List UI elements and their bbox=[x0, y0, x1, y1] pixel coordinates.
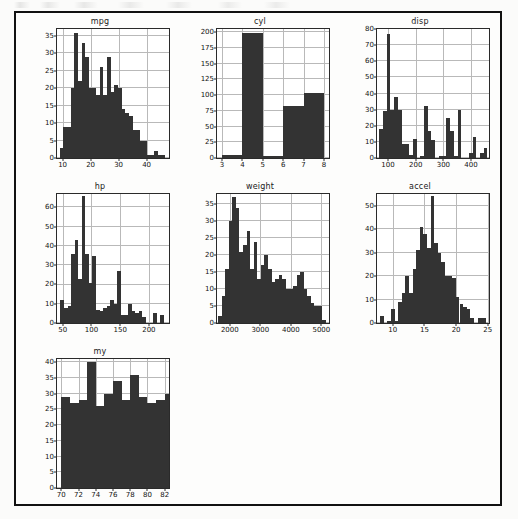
plot-area-accel: 0102030405010152025 bbox=[376, 193, 490, 324]
y-axis-tick-label: 20 bbox=[205, 252, 214, 259]
y-axis-tick-mark bbox=[214, 255, 217, 256]
subplot-my: my 051015202530354070727476788082 bbox=[20, 346, 180, 509]
chart-title-my: my bbox=[20, 347, 180, 357]
y-axis-tick-label: 15 bbox=[205, 269, 214, 276]
x-axis-tick-label: 5 bbox=[261, 162, 265, 169]
y-axis-tick-mark bbox=[54, 456, 57, 457]
chart-title-accel: accel bbox=[340, 182, 500, 192]
x-axis-tick-mark bbox=[120, 323, 121, 326]
x-axis-tick-label: 150 bbox=[113, 327, 126, 334]
y-axis-tick-label: 30 bbox=[205, 218, 214, 225]
x-axis-tick-mark bbox=[388, 158, 389, 161]
x-axis-tick-mark bbox=[229, 323, 230, 326]
y-axis-tick-label: 10 bbox=[365, 138, 374, 145]
x-axis-tick-label: 2000 bbox=[221, 327, 239, 334]
chart-title-weight: weight bbox=[180, 182, 340, 192]
y-axis-tick-mark bbox=[214, 110, 217, 111]
y-axis-tick-mark bbox=[374, 93, 377, 94]
x-axis-tick-mark bbox=[290, 323, 291, 326]
plot-area-cyl: 0255075100125150175200345678 bbox=[216, 28, 330, 159]
y-axis-tick-label: 30 bbox=[365, 106, 374, 113]
y-axis-tick-label: 35 bbox=[45, 374, 54, 381]
x-axis-tick-label: 25 bbox=[483, 327, 492, 334]
histogram-bar bbox=[122, 400, 131, 488]
histogram-bar bbox=[87, 362, 96, 488]
y-axis-tick-label: 200 bbox=[201, 29, 214, 36]
y-axis-tick-mark bbox=[54, 488, 57, 489]
subplot-weight: weight 051015202530352000300040005000 bbox=[180, 181, 340, 344]
y-axis-tick-mark bbox=[54, 362, 57, 363]
chart-title-mpg: mpg bbox=[20, 17, 180, 27]
histogram-bar bbox=[322, 320, 326, 323]
histogram-bar bbox=[79, 400, 88, 488]
y-axis-tick-mark bbox=[374, 29, 377, 30]
histogram-bar bbox=[160, 315, 164, 323]
histogram-bar bbox=[153, 313, 157, 323]
y-axis-tick-mark bbox=[214, 221, 217, 222]
y-axis-tick-mark bbox=[214, 306, 217, 307]
x-axis-tick-label: 74 bbox=[91, 492, 100, 499]
plot-canvas-weight bbox=[217, 194, 329, 323]
histogram-bar bbox=[380, 316, 384, 323]
gridline-horizontal bbox=[57, 226, 169, 227]
histogram-bar bbox=[304, 93, 324, 158]
histogram-bar bbox=[70, 403, 79, 488]
y-axis-tick-label: 20 bbox=[365, 122, 374, 129]
x-axis-tick-label: 72 bbox=[74, 492, 83, 499]
y-axis-tick-mark bbox=[214, 79, 217, 80]
histogram-bar bbox=[413, 139, 417, 158]
histogram-bar bbox=[130, 375, 139, 488]
y-axis-tick-mark bbox=[54, 284, 57, 285]
y-axis-tick-label: 40 bbox=[45, 242, 54, 249]
y-axis-tick-label: 175 bbox=[201, 44, 214, 51]
y-axis-tick-mark bbox=[214, 126, 217, 127]
y-axis-tick-mark bbox=[374, 229, 377, 230]
x-axis-tick-label: 5000 bbox=[312, 327, 330, 334]
x-axis-tick-mark bbox=[147, 488, 148, 491]
y-axis-tick-label: 125 bbox=[201, 76, 214, 83]
subplot-mpg: mpg 0510152025303510203040 bbox=[20, 16, 180, 179]
y-axis-tick-mark bbox=[54, 35, 57, 36]
y-axis-tick-mark bbox=[54, 226, 57, 227]
y-axis-tick-label: 50 bbox=[45, 223, 54, 230]
histogram-bar bbox=[113, 381, 122, 488]
y-axis-tick-mark bbox=[374, 299, 377, 300]
y-axis-tick-label: 10 bbox=[205, 286, 214, 293]
y-axis-tick-mark bbox=[54, 53, 57, 54]
y-axis-tick-label: 30 bbox=[45, 262, 54, 269]
y-axis-tick-label: 15 bbox=[45, 437, 54, 444]
y-axis-tick-mark bbox=[374, 141, 377, 142]
histogram-bar bbox=[142, 317, 146, 323]
y-axis-tick-label: 40 bbox=[365, 226, 374, 233]
x-axis-tick-mark bbox=[415, 158, 416, 161]
y-axis-tick-label: 25 bbox=[205, 139, 214, 146]
chart-title-disp: disp bbox=[340, 17, 500, 27]
x-axis-tick-mark bbox=[62, 158, 63, 161]
y-axis-tick-mark bbox=[54, 105, 57, 106]
gridline-horizontal bbox=[217, 31, 329, 32]
x-axis-tick-label: 100 bbox=[381, 162, 394, 169]
x-axis-tick-mark bbox=[487, 323, 488, 326]
y-axis-tick-label: 50 bbox=[365, 74, 374, 81]
gridline-horizontal bbox=[217, 47, 329, 48]
figure-frame: mpg 0510152025303510203040 cyl 025507510… bbox=[14, 11, 502, 506]
plot-area-my: 051015202530354070727476788082 bbox=[56, 358, 170, 489]
y-axis-tick-mark bbox=[374, 323, 377, 324]
y-axis-tick-mark bbox=[214, 158, 217, 159]
plot-canvas-cyl bbox=[217, 29, 329, 158]
y-axis-tick-mark bbox=[54, 265, 57, 266]
gridline-horizontal bbox=[377, 76, 489, 77]
x-axis-tick-mark bbox=[146, 158, 147, 161]
y-axis-tick-mark bbox=[214, 204, 217, 205]
x-axis-tick-mark bbox=[130, 488, 131, 491]
x-axis-tick-label: 30 bbox=[114, 162, 123, 169]
y-axis-tick-mark bbox=[374, 276, 377, 277]
chart-title-cyl: cyl bbox=[180, 17, 340, 27]
subplot-grid: mpg 0510152025303510203040 cyl 025507510… bbox=[16, 13, 500, 504]
histogram-bar bbox=[473, 137, 477, 158]
histogram-bar bbox=[450, 131, 454, 158]
y-axis-tick-mark bbox=[54, 207, 57, 208]
x-axis-tick-mark bbox=[321, 323, 322, 326]
chart-title-hp: hp bbox=[20, 182, 180, 192]
gridline-vertical bbox=[443, 29, 444, 158]
